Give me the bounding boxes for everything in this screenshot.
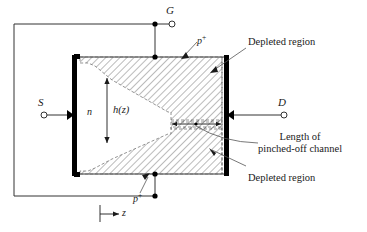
callout-depleted-region-top: Depleted region bbox=[248, 36, 315, 48]
channel-height-label: h(z) bbox=[113, 104, 129, 116]
depleted-region-upper bbox=[80, 57, 222, 122]
gate-junction-dot-bottom bbox=[152, 193, 157, 198]
gate-contact-pad-bottom-left bbox=[74, 172, 80, 177]
source-terminal-circle[interactable] bbox=[41, 112, 47, 118]
gate-top-region-label: p+ bbox=[197, 34, 206, 47]
p-plus-top-superscript: + bbox=[202, 33, 206, 42]
leader-arrow-p-plus-top bbox=[181, 52, 189, 59]
p-plus-bottom-superscript: + bbox=[138, 191, 142, 200]
gate-contact-dot-bottom bbox=[152, 171, 157, 176]
pinched-off-length-leader-anchor bbox=[194, 122, 197, 125]
drain-terminal-circle[interactable] bbox=[281, 112, 287, 118]
callout-pinched-off-line-1: Length of bbox=[258, 131, 342, 143]
callout-depleted-region-bottom: Depleted region bbox=[248, 172, 315, 184]
channel-region-label: n bbox=[87, 106, 92, 117]
gate-bottom-region-label: p+ bbox=[133, 192, 142, 205]
terminal-drain-label: D bbox=[278, 96, 286, 108]
gate-contact-pad-top-left bbox=[74, 54, 80, 59]
terminal-gate-label: G bbox=[166, 4, 174, 16]
z-axis-label: z bbox=[122, 207, 126, 218]
gate-contact-dot-top bbox=[152, 54, 157, 59]
diagram-canvas bbox=[0, 0, 367, 232]
gate-terminal-circle[interactable] bbox=[169, 21, 175, 27]
callout-pinched-off-channel-length: Length of pinched-off channel bbox=[258, 131, 342, 155]
jfet-pinchoff-diagram: G S D n h(z) p+ p+ z Depleted region Len… bbox=[0, 0, 367, 232]
terminal-source-label: S bbox=[38, 96, 44, 108]
callout-pinched-off-line-2: pinched-off channel bbox=[258, 143, 342, 155]
depleted-region-lower bbox=[80, 127, 222, 174]
gate-junction-dot bbox=[152, 21, 157, 26]
